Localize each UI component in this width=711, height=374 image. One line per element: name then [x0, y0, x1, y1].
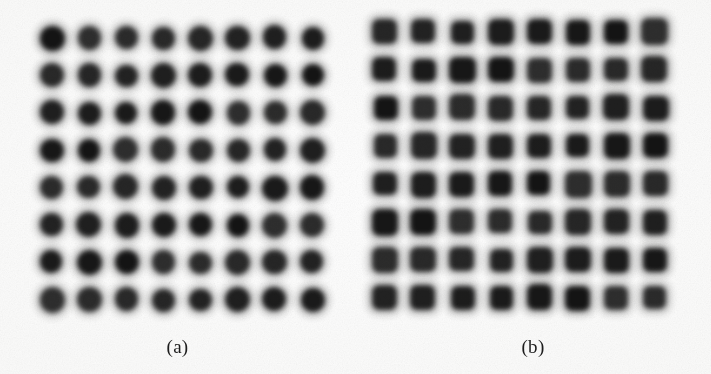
dot-b-r1c5 [527, 19, 552, 44]
dot-a-r2c1 [40, 63, 64, 87]
dot-b-r3c7 [603, 94, 629, 120]
panel-a [0, 0, 355, 374]
dot-a-r2c8 [302, 64, 324, 86]
dot-b-r8c3 [451, 286, 475, 310]
dot-a-r5c7 [262, 176, 287, 201]
dot-b-r8c8 [643, 286, 667, 310]
dot-b-r6c3 [449, 209, 474, 234]
dot-a-r2c3 [115, 65, 138, 88]
dot-b-r7c4 [490, 249, 514, 273]
dot-b-r8c7 [604, 286, 628, 310]
dot-a-r3c2 [78, 102, 101, 125]
dot-b-r6c7 [604, 209, 629, 234]
dot-a-r5c4 [152, 176, 176, 200]
dot-b-r7c8 [643, 248, 667, 272]
dot-b-r6c2 [410, 209, 436, 235]
dot-b-r8c5 [527, 284, 553, 310]
dot-a-r8c3 [115, 287, 139, 311]
dot-a-r1c6 [225, 26, 249, 50]
dot-b-r6c5 [528, 211, 551, 234]
dot-b-r3c3 [449, 94, 475, 120]
dot-b-r1c1 [372, 19, 397, 44]
dot-a-r6c5 [189, 213, 212, 236]
dot-b-r5c1 [373, 172, 396, 195]
dot-a-r7c6 [225, 250, 250, 275]
dot-a-r4c8 [300, 138, 325, 163]
dot-a-r3c8 [300, 100, 325, 125]
dot-a-r3c6 [227, 101, 250, 124]
dot-b-r3c2 [412, 96, 435, 119]
dot-b-r6c4 [488, 209, 512, 233]
dot-a-r8c8 [301, 288, 324, 311]
dot-a-r7c3 [115, 250, 139, 274]
dot-a-r2c5 [188, 63, 213, 88]
dot-a-r5c8 [300, 175, 325, 200]
dot-a-r5c1 [40, 176, 63, 199]
dot-a-r3c7 [264, 101, 287, 124]
dot-a-r7c2 [77, 250, 102, 275]
dot-b-r8c4 [490, 286, 513, 309]
dot-b-r2c4 [488, 57, 514, 83]
dot-b-r7c1 [372, 247, 398, 273]
dot-b-r2c5 [527, 58, 552, 83]
dot-b-r4c8 [643, 133, 668, 158]
dot-b-r5c4 [488, 171, 512, 195]
dot-a-r1c3 [115, 26, 138, 49]
dot-b-r6c6 [565, 209, 591, 235]
dot-a-r1c8 [302, 27, 325, 50]
dot-a-r2c4 [151, 63, 176, 88]
dot-b-r5c7 [604, 171, 630, 197]
dot-a-r5c5 [189, 176, 212, 199]
dot-a-r3c3 [115, 102, 137, 124]
dot-a-r2c2 [78, 63, 101, 86]
dot-a-r6c2 [76, 212, 101, 237]
dot-a-r1c5 [188, 26, 213, 51]
dot-b-r8c6 [565, 286, 590, 311]
dot-a-r7c1 [40, 250, 62, 272]
dot-a-r6c3 [115, 213, 140, 238]
dot-b-r1c3 [451, 21, 474, 44]
dot-b-r1c2 [411, 19, 435, 43]
dot-a-r8c4 [152, 289, 175, 312]
dot-b-r4c6 [566, 134, 589, 157]
dot-b-r4c7 [604, 133, 630, 159]
dot-a-r6c8 [300, 213, 324, 237]
dot-b-r5c8 [643, 171, 668, 196]
dot-a-r6c6 [227, 214, 249, 236]
dot-b-r7c3 [449, 247, 473, 271]
dot-a-r1c2 [78, 26, 102, 50]
dot-b-r3c5 [527, 96, 551, 120]
dot-a-r7c8 [300, 250, 324, 274]
dot-b-r6c8 [643, 210, 667, 234]
panel-a-caption: (a) [0, 336, 355, 358]
dot-b-r2c6 [566, 58, 590, 82]
dot-b-r2c8 [641, 56, 667, 82]
dot-b-r2c7 [604, 58, 627, 81]
dot-b-r4c5 [527, 134, 551, 158]
dot-b-r7c7 [604, 248, 629, 273]
dot-b-r4c4 [488, 134, 513, 159]
dot-a-r8c2 [77, 287, 102, 312]
dot-b-r8c2 [410, 285, 435, 310]
panel-b [355, 0, 711, 374]
dot-a-r1c1 [40, 26, 65, 51]
dot-a-r8c5 [189, 289, 211, 311]
dot-a-r5c2 [77, 176, 99, 198]
figure-root: (a) (b) [0, 0, 711, 374]
dot-b-r1c4 [488, 19, 514, 45]
dot-b-r4c1 [374, 134, 398, 158]
dot-a-r7c5 [189, 252, 212, 275]
dot-a-r4c7 [264, 138, 286, 160]
dot-b-r2c3 [449, 57, 475, 83]
dot-b-r3c6 [566, 96, 590, 120]
dot-b-r1c8 [641, 18, 667, 44]
dot-b-r5c2 [411, 172, 437, 198]
dot-b-r4c3 [449, 134, 475, 160]
dot-a-r4c5 [189, 139, 213, 163]
dot-a-r2c6 [225, 63, 249, 87]
dot-a-r7c7 [262, 250, 287, 275]
dot-a-r1c7 [263, 25, 286, 48]
dot-b-r5c5 [527, 171, 551, 195]
dot-b-r6c1 [372, 209, 398, 235]
dot-a-r4c6 [227, 139, 250, 162]
